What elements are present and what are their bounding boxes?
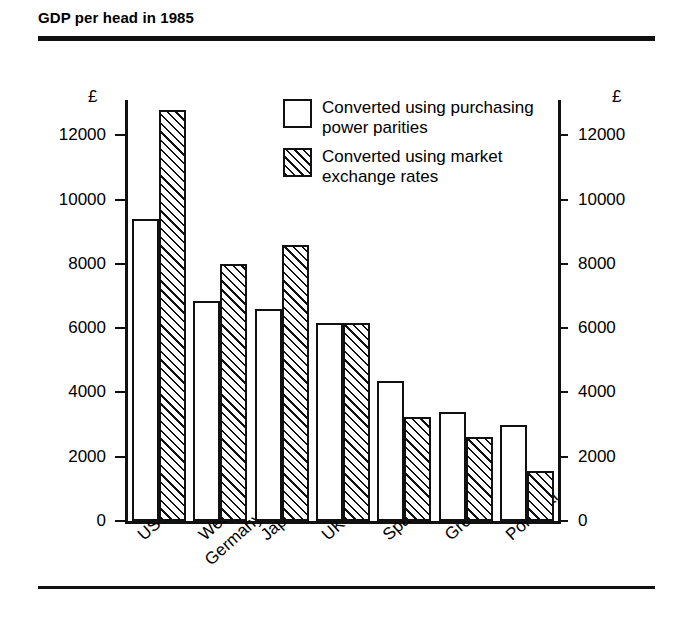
y-axis-right (558, 100, 561, 521)
y-tick-l-12000 (115, 134, 125, 136)
y-tick-label-r-6000: 6000 (578, 319, 616, 336)
legend: Converted using purchasing power paritie… (283, 98, 534, 196)
y-tick-label-r-12000: 12000 (578, 126, 625, 143)
y-tick-label-l-0: 0 (97, 512, 106, 529)
y-tick-r-6000 (558, 327, 568, 329)
legend-swatch-hatched-square (283, 148, 312, 177)
bar-uk-ppp (316, 323, 343, 521)
y-tick-label-l-10000: 10000 (59, 191, 106, 208)
y-tick-r-0 (558, 520, 568, 522)
y-tick-r-2000 (558, 456, 568, 458)
legend-label-market-line1: Converted using market (322, 147, 502, 167)
legend-swatch-open-square (283, 99, 312, 128)
legend-label-market: Converted using market exchange rates (322, 147, 502, 187)
header-divider (38, 36, 655, 41)
y-tick-label-r-4000: 4000 (578, 383, 616, 400)
bar-us-ppp (132, 219, 159, 521)
bar-portugal-ppp (500, 425, 527, 521)
legend-label-ppp-line2: power parities (322, 118, 534, 138)
bar-west-germany-ppp (193, 301, 220, 521)
y-tick-label-l-12000: 12000 (59, 126, 106, 143)
bar-greece-market (466, 437, 493, 521)
y-tick-label-l-4000: 4000 (68, 383, 106, 400)
y-tick-r-4000 (558, 391, 568, 393)
bar-spain-market (404, 417, 431, 521)
y-tick-r-8000 (558, 263, 568, 265)
bar-spain-ppp (377, 381, 404, 521)
y-tick-label-r-0: 0 (578, 512, 587, 529)
legend-item-ppp: Converted using purchasing power paritie… (283, 98, 534, 138)
y-tick-l-6000 (115, 327, 125, 329)
y-tick-l-0 (115, 520, 125, 522)
bar-japan-market (282, 245, 309, 521)
y-tick-label-r-10000: 10000 (578, 191, 625, 208)
chart-page: GDP per head in 1985 £ £ 002000200040004… (0, 0, 693, 620)
legend-label-ppp: Converted using purchasing power paritie… (322, 98, 534, 138)
legend-label-market-line2: exchange rates (322, 167, 502, 187)
y-tick-label-l-8000: 8000 (68, 255, 106, 272)
left-axis-unit: £ (88, 88, 97, 105)
y-tick-l-2000 (115, 456, 125, 458)
y-tick-l-4000 (115, 391, 125, 393)
bar-japan-ppp (255, 309, 282, 521)
y-tick-l-8000 (115, 263, 125, 265)
right-axis-unit: £ (612, 88, 621, 105)
y-tick-l-10000 (115, 199, 125, 201)
bar-uk-market (343, 323, 370, 521)
legend-label-ppp-line1: Converted using purchasing (322, 98, 534, 118)
page-title: GDP per head in 1985 (38, 9, 194, 26)
y-tick-label-l-2000: 2000 (68, 448, 106, 465)
legend-item-market: Converted using market exchange rates (283, 147, 534, 187)
y-tick-label-r-2000: 2000 (578, 448, 616, 465)
y-tick-r-12000 (558, 134, 568, 136)
y-tick-label-l-6000: 6000 (68, 319, 106, 336)
y-tick-label-r-8000: 8000 (578, 255, 616, 272)
bar-west-germany-market (220, 264, 247, 521)
bar-us-market (159, 110, 186, 521)
bar-greece-ppp (439, 412, 466, 521)
y-tick-r-10000 (558, 199, 568, 201)
bar-portugal-market (527, 471, 554, 521)
footer-divider (38, 586, 655, 589)
